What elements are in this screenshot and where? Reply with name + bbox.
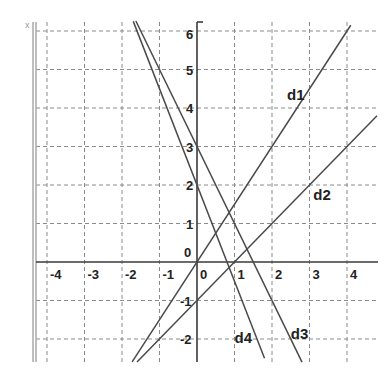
data-lines [132,21,377,362]
tick-labels: -4-3-2-101234-2-11234560 [50,27,358,347]
y-tick-label: 3 [186,140,193,155]
label-d1: d1 [287,86,305,103]
corner-mark: x [25,20,30,30]
y-tick-label: 4 [186,101,194,116]
coordinate-plane: x -4-3-2-101234-2-11234560 d1d2d3d4 [0,0,392,383]
line-d4 [133,21,264,358]
y-tick-label: -2 [180,332,192,347]
line-d3 [136,21,302,362]
y-tick-label: 2 [186,178,193,193]
y-tick-label: 1 [186,217,193,232]
x-tick-label: -2 [125,267,137,282]
y-tick-label: 5 [186,63,193,78]
x-tick-label: 0 [200,267,207,282]
label-d3: d3 [291,325,309,342]
label-d4: d4 [235,329,253,346]
x-tick-label: -4 [50,267,62,282]
x-tick-label: 3 [313,267,320,282]
x-tick-label: -1 [163,267,175,282]
left-frame: x [25,20,36,362]
x-tick-label: 1 [238,267,245,282]
x-tick-label: 2 [275,267,282,282]
origin-label: 0 [184,245,191,260]
x-tick-label: 4 [350,267,358,282]
line-d2 [137,116,377,362]
y-tick-label: -1 [180,294,192,309]
y-tick-label: 6 [186,27,193,42]
x-tick-label: -3 [88,267,100,282]
line-labels: d1d2d3d4 [235,86,331,346]
label-d2: d2 [313,186,331,203]
